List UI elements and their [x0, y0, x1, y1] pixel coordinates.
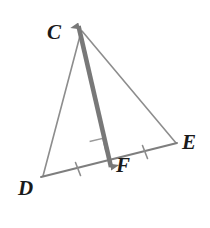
side-CE	[82, 31, 176, 143]
vertex-label-D: D	[18, 178, 33, 199]
side-CD	[43, 32, 81, 176]
vertex-label-E: E	[182, 132, 196, 153]
vertex-label-C: C	[47, 22, 61, 43]
geometry-diagram-canvas: C D E F	[0, 0, 210, 228]
point-label-F: F	[116, 155, 130, 176]
